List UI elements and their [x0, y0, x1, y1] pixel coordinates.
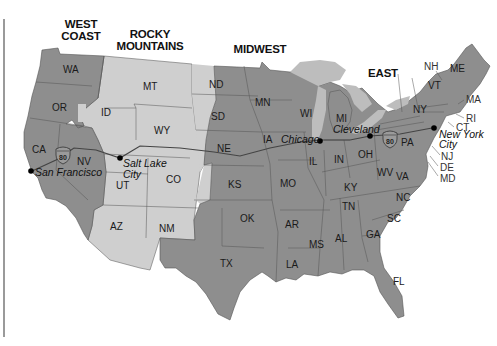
svg-text:Chicago: Chicago [281, 133, 320, 145]
svg-text:CA: CA [32, 144, 46, 155]
svg-text:GA: GA [366, 229, 381, 240]
svg-text:FL: FL [393, 276, 405, 287]
svg-text:MN: MN [255, 97, 271, 108]
svg-text:MD: MD [440, 173, 456, 184]
svg-text:DE: DE [440, 162, 454, 173]
svg-text:AR: AR [285, 219, 299, 230]
svg-text:ME: ME [450, 63, 465, 74]
svg-text:MO: MO [280, 178, 296, 189]
svg-text:VA: VA [396, 171, 409, 182]
svg-text:WY: WY [154, 125, 170, 136]
svg-text:SC: SC [387, 213, 401, 224]
svg-text:MS: MS [309, 239, 324, 250]
svg-text:LA: LA [286, 259, 299, 270]
oregon-light-patch [78, 104, 86, 122]
svg-text:NH: NH [424, 61, 438, 72]
region-label-midwest: MIDWEST [234, 43, 287, 55]
svg-text:WV: WV [377, 167, 393, 178]
svg-text:NM: NM [159, 223, 175, 234]
svg-text:WA: WA [63, 64, 79, 75]
city-dot-salt-lake-city [117, 155, 123, 161]
svg-text:IN: IN [334, 154, 344, 165]
svg-text:OK: OK [240, 213, 255, 224]
svg-text:Cleveland: Cleveland [333, 123, 381, 135]
svg-text:City: City [439, 138, 458, 150]
svg-text:City: City [123, 168, 142, 180]
svg-text:NC: NC [396, 192, 410, 203]
city-dot-new-york-city [431, 125, 437, 131]
svg-text:IL: IL [309, 156, 318, 167]
region-label-east: EAST [368, 67, 398, 79]
svg-text:MT: MT [143, 81, 157, 92]
svg-text:NJ: NJ [441, 151, 453, 162]
svg-text:80: 80 [59, 154, 67, 161]
svg-text:NY: NY [413, 104, 427, 115]
region-label-rocky-mountains: ROCKY [130, 28, 171, 40]
svg-text:TX: TX [220, 258, 233, 269]
us-regions-map: 80 80 WEST COAST ROCKY MOUNTAINS MIDWEST… [0, 0, 497, 346]
svg-text:80: 80 [386, 138, 394, 145]
svg-text:MA: MA [466, 94, 481, 105]
svg-text:ID: ID [101, 107, 111, 118]
svg-text:AL: AL [335, 233, 348, 244]
svg-text:AZ: AZ [110, 221, 123, 232]
svg-text:ND: ND [209, 79, 223, 90]
svg-text:CO: CO [166, 174, 181, 185]
svg-text:UT: UT [116, 180, 129, 191]
svg-text:NE: NE [217, 143, 231, 154]
svg-text:WI: WI [300, 108, 312, 119]
svg-text:TN: TN [342, 201, 355, 212]
region-label-west-coast: COAST [61, 30, 100, 42]
svg-text:PA: PA [401, 137, 414, 148]
svg-text:KS: KS [228, 179, 242, 190]
svg-text:VT: VT [428, 80, 441, 91]
city-dot-san-francisco [28, 168, 34, 174]
svg-text:IA: IA [263, 134, 273, 145]
svg-text:SD: SD [211, 111, 225, 122]
region-label-west-coast: WEST [65, 18, 98, 30]
svg-text:KY: KY [344, 182, 358, 193]
svg-text:San Francisco: San Francisco [35, 166, 102, 178]
region-label-rocky-mountains: MOUNTAINS [117, 40, 185, 52]
svg-text:OH: OH [358, 149, 373, 160]
svg-text:OR: OR [52, 102, 67, 113]
